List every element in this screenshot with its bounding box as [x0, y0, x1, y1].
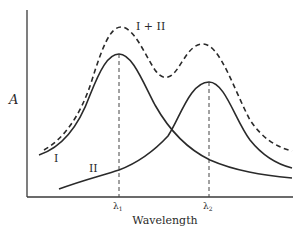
lambda2-tick-label: λ2 [203, 201, 213, 212]
curve-1 [39, 54, 292, 178]
curve-1-label: I [54, 152, 58, 165]
absorption-spectrum-diagram: A I + II I II λ1 λ2 Wavelength [0, 0, 305, 234]
curve-2-label: II [89, 162, 98, 175]
y-axis-label: A [8, 92, 18, 107]
lambda1-tick-label: λ1 [113, 201, 123, 212]
curve-sum-label: I + II [136, 20, 165, 33]
curve-sum [44, 27, 292, 151]
x-axis-label: Wavelength [132, 214, 197, 227]
